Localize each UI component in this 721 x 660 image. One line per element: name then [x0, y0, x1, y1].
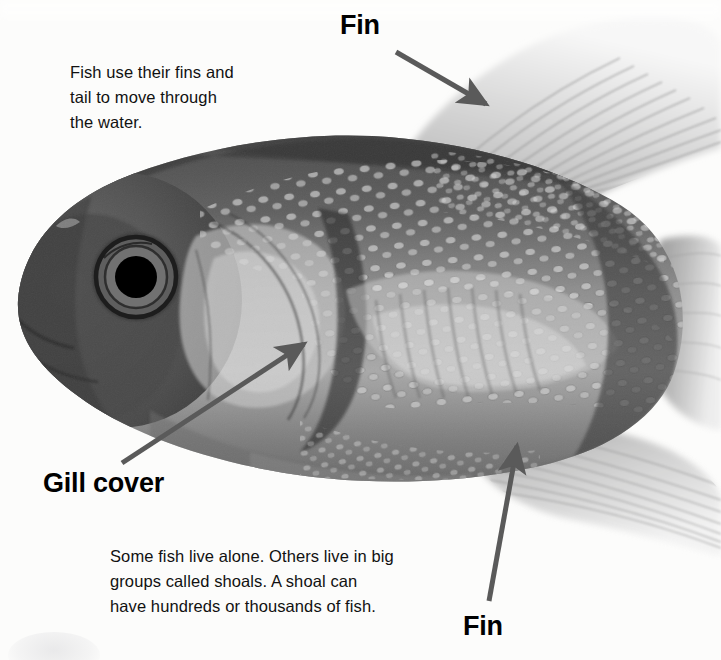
label-fin-dorsal: Fin [340, 12, 380, 39]
book-page: Fish use their fins and tail to move thr… [0, 0, 721, 660]
eye-pupil [115, 256, 157, 298]
label-fin-anal: Fin [463, 613, 503, 640]
fish-eye [92, 233, 180, 321]
text-block-shoals: Some fish live alone. Others live in big… [110, 544, 394, 619]
text-block-fins: Fish use their fins and tail to move thr… [70, 60, 234, 135]
label-gill-cover: Gill cover [43, 470, 164, 497]
